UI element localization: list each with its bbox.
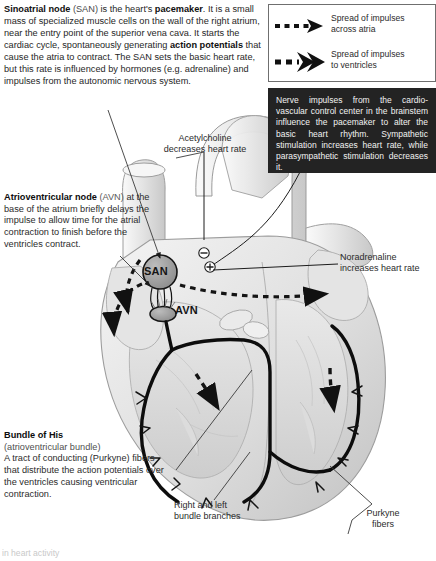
legend-vent-line1: Spread of impulses xyxy=(331,49,405,59)
purkyne-line2: fibers xyxy=(372,519,394,529)
dashed-arrow-thin-icon xyxy=(273,9,329,43)
cropped-footer-caption: in heart activity xyxy=(2,548,142,559)
intro-term-action-potentials: action potentials xyxy=(170,40,243,50)
noradrenaline-line2: increases heart rate xyxy=(340,263,420,273)
ventricular-impulse-arrows xyxy=(196,368,334,410)
intro-term-san: Sinoatrial node xyxy=(4,4,70,14)
brainstem-info-text: Nerve impulses from the cardio-vascular … xyxy=(276,95,428,173)
avn-label: AVN xyxy=(175,304,198,316)
legend-item-atria: Spread of impulses across atria xyxy=(269,9,435,43)
legend-atria-line2: across atria xyxy=(331,24,375,34)
legend-box: Spread of impulses across atria Spread o… xyxy=(268,4,436,82)
avn-callout: Atrioventricular node (AVN) at the base … xyxy=(4,192,154,251)
intro-san-abbrev: (SAN) xyxy=(70,4,98,14)
bundle-branches-label: Right and left bundle branches xyxy=(174,500,270,523)
brainstem-info-box: Nerve impulses from the cardio-vascular … xyxy=(268,88,436,173)
legend-label-ventricles: Spread of impulses to ventricles xyxy=(331,49,435,70)
bundle-of-his-callout: Bundle of His (atrioventricular bundle) … xyxy=(4,430,172,500)
avn-node-marker xyxy=(150,299,176,322)
san-label: SAN xyxy=(144,265,168,277)
intro-term-pacemaker: pacemaker xyxy=(155,4,203,14)
avn-callout-heading: Atrioventricular node xyxy=(4,192,97,202)
his-callout-body: A tract of conducting (Purkyne) fibers t… xyxy=(4,453,172,500)
intro-text-a: is the heart's xyxy=(98,4,155,14)
legend-item-ventricles: Spread of impulses to ventricles xyxy=(269,45,435,79)
acetylcholine-line2: decreases heart rate xyxy=(164,144,247,154)
his-callout-subheading: (atrioventricular bundle) xyxy=(4,442,172,454)
intro-paragraph: Sinoatrial node (SAN) is the heart's pac… xyxy=(4,3,266,87)
his-callout-heading: Bundle of His xyxy=(4,430,172,442)
bundle-branches-line1: Right and left xyxy=(174,500,227,510)
dashed-double-arrow-bold-icon xyxy=(273,45,329,79)
bundle-branches-line2: bundle branches xyxy=(174,511,241,521)
legend-atria-line1: Spread of impulses xyxy=(331,13,405,23)
acetylcholine-label: Acetylcholine decreases heart rate xyxy=(141,133,269,156)
legend-vent-line2: to ventricles xyxy=(331,60,377,70)
internodal-tracts xyxy=(151,287,172,310)
conduction-pathway xyxy=(141,322,359,502)
purkyne-line1: Purkyne xyxy=(366,508,399,518)
noradrenaline-label: Noradrenaline increases heart rate xyxy=(340,252,434,275)
acetylcholine-line1: Acetylcholine xyxy=(178,133,231,143)
avn-callout-abbrev: (AVN) xyxy=(97,192,124,202)
purkyne-fibers-label: Purkyne fibers xyxy=(352,508,414,531)
legend-label-atria: Spread of impulses across atria xyxy=(331,13,435,34)
noradrenaline-line1: Noradrenaline xyxy=(340,252,397,262)
